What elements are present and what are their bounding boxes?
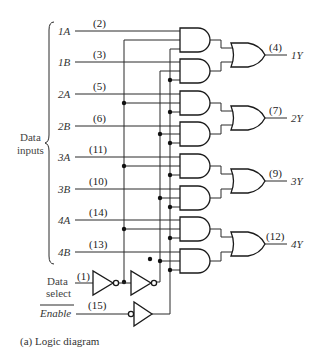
pin-10: (10) [89,175,108,188]
inverter-bubble-1 [113,280,118,285]
select-inverter-2 [131,271,151,295]
output-3y-label: 3Y [290,175,305,187]
output-1y-label: 1Y [291,49,305,61]
and-gate-2a [180,91,210,115]
and-gate-3a [180,154,210,178]
pin-3: (3) [93,48,106,61]
pin-15: (15) [88,299,107,312]
input-wires [75,31,180,252]
outputs: (4) (7) (9) (12) 1Y 2Y 3Y 4Y [265,41,305,250]
or-gates [231,43,265,256]
data-inputs-label-line1: Data [20,131,41,143]
enable: Enable (15) [39,299,152,326]
and-gates [180,28,210,273]
and-gate-1b [180,59,210,83]
select-inverter-1 [93,271,113,295]
input-4a-label: 4A [58,214,71,226]
pin-5: (5) [93,80,106,93]
input-labels: 1A 1B 2A 2B 3A 3B 4A 4B [57,25,71,258]
and-or-wires [210,40,233,261]
or-gate-4y [231,232,265,256]
pin-2: (2) [93,17,106,30]
pin-7: (7) [269,104,282,117]
enable-bubble [128,311,133,316]
junction-dots [122,78,172,284]
pin-14: (14) [89,206,108,219]
pin-11: (11) [89,143,107,156]
pin-9: (9) [269,167,282,180]
or-gate-2y [231,106,265,130]
and-gate-4a [180,217,210,241]
input-2b-label: 2B [58,120,71,132]
figure-caption: (a) Logic diagram [20,335,99,347]
input-3a-label: 3A [57,151,71,163]
and-gate-1a [180,28,210,52]
input-4b-label: 4B [58,246,71,258]
data-inputs-brace [45,22,54,264]
output-2y-label: 2Y [291,112,305,124]
inverter-bubble-2 [151,280,156,285]
input-1b-label: 1B [58,56,71,68]
input-2a-label: 2A [58,88,71,100]
and-gate-3b [180,186,210,210]
logic-diagram: Data inputs 1A 1B 2A 2B 3A 3B 4A 4B (2) … [0,0,320,354]
enable-buffer [134,302,152,326]
pin-12: (12) [266,230,285,243]
pin-1: (1) [77,270,90,283]
data-select-label-line2: select [46,287,71,299]
output-4y-label: 4Y [291,238,305,250]
pin-13: (13) [89,238,108,251]
and-gate-2b [180,122,210,146]
pin-6: (6) [93,112,106,125]
data-inputs-label-line2: inputs [17,144,44,156]
pin-4: (4) [269,41,282,54]
input-pins: (2) (3) (5) (6) (11) (10) (14) (13) [89,17,108,251]
or-gate-1y [231,43,265,67]
or-gate-3y [231,169,265,193]
enable-label: Enable [39,307,71,319]
and-gate-4b [180,249,210,273]
data-select: Data select (1) [46,270,157,299]
input-1a-label: 1A [58,25,71,37]
data-select-label-line1: Data [47,275,68,287]
input-3b-label: 3B [57,183,71,195]
